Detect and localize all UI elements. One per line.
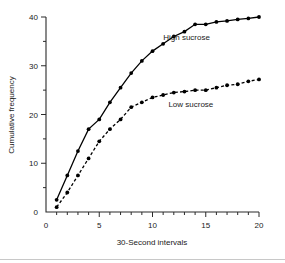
data-point-marker [257,15,261,19]
series-line [57,17,259,200]
y-axis-tick-labels: 010203040 [29,13,38,217]
series-label-1: High sucrose [163,33,210,42]
data-point-marker [119,117,123,121]
data-point-marker [204,22,208,26]
data-point-marker [97,139,101,143]
data-point-marker [161,42,165,46]
data-point-marker [87,127,91,131]
x-tick-label: 0 [44,221,49,230]
data-point-marker [76,174,80,178]
data-point-marker [108,100,112,104]
series-2 [55,78,261,210]
data-point-marker [76,149,80,153]
data-point-marker [246,17,250,21]
data-point-marker [225,19,229,23]
data-point-marker [97,117,101,121]
data-point-marker [140,100,144,104]
chart-figure: 05101520 010203040 High sucroseLow sucro… [0,0,285,263]
y-tick-label: 40 [29,13,38,22]
data-point-marker [172,91,176,95]
x-tick-label: 10 [148,221,157,230]
data-point-marker [257,78,261,82]
series-label-2: Low sucrose [168,100,213,109]
data-point-marker [151,49,155,53]
y-tick-label: 0 [34,208,39,217]
y-tick-label: 20 [29,111,38,120]
y-tick-label: 30 [29,62,38,71]
data-point-marker [151,96,155,100]
x-axis-tick-marks [57,212,259,217]
axis-lines [46,17,259,212]
x-axis-tick-labels: 05101520 [44,221,264,230]
data-point-marker [55,205,59,209]
data-point-marker [236,18,240,22]
data-point-marker [140,59,144,63]
data-point-marker [108,127,112,131]
y-tick-label: 10 [29,159,38,168]
data-point-marker [225,83,229,87]
data-point-marker [119,86,123,90]
y-axis-tick-marks [41,17,46,188]
data-point-marker [87,156,91,160]
data-point-marker [55,198,59,202]
y-axis-title: Cumulative frequency [7,76,16,153]
x-tick-label: 20 [255,221,264,230]
data-point-marker [65,174,69,178]
data-point-marker [193,88,197,92]
series-annotations: High sucroseLow sucrose [163,33,214,109]
cumulative-frequency-line-chart: 05101520 010203040 High sucroseLow sucro… [0,0,285,263]
series-1 [55,15,261,202]
data-point-marker [129,71,133,75]
data-point-marker [204,88,208,92]
x-tick-label: 15 [201,221,210,230]
data-point-marker [129,105,133,109]
data-point-marker [236,82,240,86]
data-point-marker [193,22,197,26]
series-line [57,79,259,207]
data-point-marker [65,191,69,195]
data-point-marker [246,79,250,83]
data-point-marker [215,20,219,24]
data-series [55,15,261,209]
x-axis-title: 30-Second intervals [117,238,188,247]
data-point-marker [183,90,187,94]
data-point-marker [161,93,165,97]
x-tick-label: 5 [97,221,102,230]
data-point-marker [215,86,219,90]
